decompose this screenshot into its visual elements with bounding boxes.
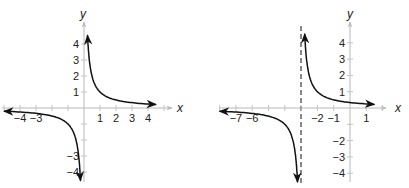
- graph-shifted-reciprocal: x y −7−6−2−114321−2−3−4: [220, 7, 402, 186]
- y-tick-label: −2: [332, 135, 345, 147]
- x-tick-label: 1: [97, 112, 103, 124]
- y-tick-label: 4: [73, 38, 79, 50]
- y-tick-label: 4: [339, 37, 345, 49]
- y-tick-label: −3: [332, 151, 345, 163]
- x-tick-label: −2: [311, 112, 324, 124]
- y-tick-label: −3: [66, 150, 79, 162]
- y-tick-label: 1: [73, 86, 79, 98]
- x-axis-label: x: [176, 101, 184, 115]
- x-tick-label: −4: [14, 112, 27, 124]
- x-tick-label: 3: [129, 112, 135, 124]
- y-axis-label: y: [346, 7, 354, 21]
- graph-reciprocal: x y −4−312344321−3−4: [2, 7, 184, 182]
- x-tick-label: 4: [145, 112, 151, 124]
- x-tick-label: −7: [230, 112, 243, 124]
- y-axis-label: y: [79, 7, 87, 21]
- y-tick-label: −4: [66, 166, 79, 178]
- x-tick-label: −1: [327, 112, 340, 124]
- y-tick-label: −4: [332, 167, 345, 179]
- curve-right-branch: [88, 35, 157, 104]
- y-tick-label: 2: [339, 69, 345, 81]
- y-tick-label: 3: [339, 53, 345, 65]
- y-tick-label: 1: [339, 86, 345, 98]
- y-tick-label: 2: [73, 70, 79, 82]
- x-tick-label: 2: [113, 112, 119, 124]
- figure: x y −4−312344321−3−4 x y −7−6−2−114321−2…: [0, 0, 409, 188]
- x-tick-label: 1: [363, 112, 369, 124]
- y-tick-label: 3: [73, 54, 79, 66]
- x-axis-label: x: [394, 101, 402, 115]
